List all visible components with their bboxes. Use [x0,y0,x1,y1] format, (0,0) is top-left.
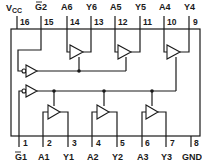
top-pins: 16 15 14 13 12 11 10 9 [17,16,198,29]
buffer-3 [142,105,166,136]
pin-label-a5: A5 [110,2,122,12]
pin-number-11: 11 [143,17,152,27]
top-pin-labels: VCC G2 A6 Y6 A5 Y5 A4 Y4 [6,2,195,14]
buffer-triangle-g2 [26,65,37,77]
inverter-bubble-g1 [22,89,26,93]
buffer-4 [164,29,189,59]
pin-label-g2: G2 [35,2,47,12]
pin-label-a2: A2 [87,152,99,162]
bottom-pin-labels: G1 A1 Y1 A2 Y2 A3 Y3 GND [15,152,202,162]
pin-label-a3: A3 [137,152,149,162]
pin-number-12: 12 [118,17,128,27]
buffer-triangle-6 [70,45,83,59]
pin-label-y6: Y6 [86,2,97,12]
pin-number-16: 16 [20,17,30,27]
package-outline [11,29,200,136]
buffer-triangle-g1 [26,85,37,97]
pin-label-a6: A6 [61,2,73,12]
pin-number-6: 6 [145,138,150,148]
inverter-bubble-g2 [22,69,26,73]
pin-label-vcc: VCC [6,3,22,14]
pin-number-4: 4 [96,138,101,148]
pin-label-y1: Y1 [63,152,74,162]
pin-label-g1: G1 [15,152,27,162]
pin-label-a4: A4 [159,2,171,12]
pin-number-1: 1 [23,138,28,148]
pin-label-a1: A1 [38,152,50,162]
pin-number-14: 14 [70,17,80,27]
pin-label-y5: Y5 [135,2,146,12]
pin-number-10: 10 [167,17,177,27]
buffer-6 [67,29,91,59]
ic-pinout-diagram: VCC G2 A6 Y6 A5 Y5 A4 Y4 16 15 14 13 12 … [0,0,202,163]
pin-label-y3: Y3 [161,152,172,162]
buffer-1 [43,105,68,136]
buffer-triangle-5 [118,45,131,59]
pin-number-9: 9 [193,17,198,27]
buffer-5 [115,29,140,59]
pin-label-gnd: GND [182,152,202,162]
pin-number-7: 7 [170,138,175,148]
buffer-2 [92,105,117,136]
buffer-triangle-3 [146,105,158,119]
pin-label-y2: Y2 [112,152,123,162]
pin-number-2: 2 [47,138,52,148]
bottom-pins: 1 2 3 4 5 6 7 8 [19,136,199,148]
pin-label-y4: Y4 [184,2,195,12]
pin-number-13: 13 [94,17,104,27]
pin-number-5: 5 [120,138,125,148]
pin-number-8: 8 [194,138,199,148]
buffer-triangle-2 [97,105,109,119]
buffer-triangle-1 [48,105,60,119]
pin-number-3: 3 [72,138,77,148]
buffer-triangle-4 [167,45,180,59]
pin-number-15: 15 [44,17,54,27]
